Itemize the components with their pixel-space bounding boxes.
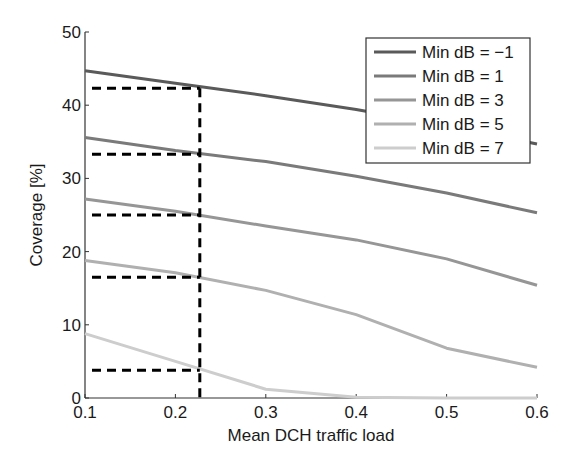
legend: Min dB = −1Min dB = 1Min dB = 3Min dB = …: [366, 38, 530, 163]
legend-label: Min dB = 3: [422, 91, 504, 110]
x-tick-label: 0.1: [73, 403, 97, 422]
x-tick-label: 0.5: [435, 403, 459, 422]
y-tick-label: 10: [62, 316, 81, 335]
legend-label: Min dB = 5: [422, 115, 504, 134]
series-line-2: [85, 199, 537, 285]
y-tick-label: 20: [62, 243, 81, 262]
x-tick-label: 0.2: [164, 403, 188, 422]
y-axis-label: Coverage [%]: [27, 164, 46, 267]
chart-canvas: 010203040500.10.20.30.40.50.6 Min dB = −…: [0, 0, 578, 463]
coverage-line-chart: 010203040500.10.20.30.40.50.6 Min dB = −…: [0, 0, 578, 463]
legend-label: Min dB = −1: [422, 43, 514, 62]
legend-label: Min dB = 1: [422, 67, 504, 86]
x-tick-label: 0.6: [525, 403, 549, 422]
y-tick-label: 30: [62, 169, 81, 188]
legend-label: Min dB = 7: [422, 139, 504, 158]
y-tick-label: 40: [62, 96, 81, 115]
x-axis-label: Mean DCH traffic load: [228, 426, 395, 445]
x-tick-label: 0.4: [344, 403, 368, 422]
y-tick-label: 50: [62, 23, 81, 42]
series-line-4: [85, 334, 537, 398]
x-tick-label: 0.3: [254, 403, 278, 422]
